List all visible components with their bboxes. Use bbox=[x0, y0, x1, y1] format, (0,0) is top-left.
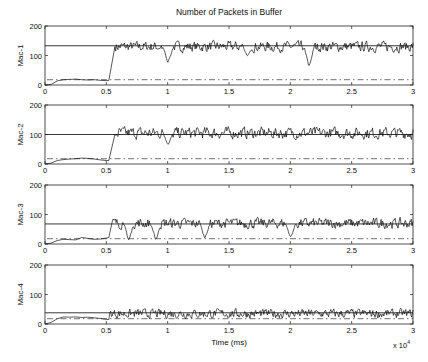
x-tick-label: 0 bbox=[43, 326, 47, 335]
y-tick-label: 0 bbox=[38, 81, 42, 90]
x-tick-label: 1.5 bbox=[224, 326, 234, 335]
x-tick-label: 0.5 bbox=[101, 246, 111, 255]
y-tick-label: 100 bbox=[29, 291, 42, 300]
series-line-mac-1 bbox=[45, 40, 413, 85]
x-tick-label: 0.5 bbox=[101, 87, 111, 96]
x-tick-label: 2.5 bbox=[346, 326, 356, 335]
x-tick-label: 1 bbox=[166, 246, 170, 255]
x-axis-exponent-power: 4 bbox=[407, 339, 410, 345]
x-axis-exponent-base: x 10 bbox=[393, 341, 407, 350]
y-tick-label: 0 bbox=[38, 320, 42, 329]
y-tick-label: 0 bbox=[38, 240, 42, 249]
x-tick-label: 2.5 bbox=[346, 166, 356, 175]
y-axis-label: Mac-2 bbox=[16, 123, 25, 146]
x-axis-exponent: x 104 bbox=[393, 339, 410, 350]
x-tick-label: 3 bbox=[411, 246, 415, 255]
x-tick-label: 1.5 bbox=[224, 166, 234, 175]
y-tick-label: 200 bbox=[29, 22, 42, 31]
axes-frame bbox=[45, 26, 413, 85]
x-tick-label: 0 bbox=[43, 246, 47, 255]
x-tick-label: 0 bbox=[43, 166, 47, 175]
x-tick-label: 2 bbox=[288, 246, 292, 255]
series-line-mac-3 bbox=[45, 217, 413, 244]
x-tick-label: 1.5 bbox=[224, 246, 234, 255]
x-tick-label: 3 bbox=[411, 87, 415, 96]
x-tick-label: 0.5 bbox=[101, 166, 111, 175]
x-tick-label: 1.5 bbox=[224, 87, 234, 96]
y-tick-label: 200 bbox=[29, 261, 42, 270]
subplot-3: 00.511.522.530100200Mac-3 bbox=[16, 181, 415, 255]
x-tick-label: 0 bbox=[43, 87, 47, 96]
x-tick-label: 3 bbox=[411, 326, 415, 335]
y-tick-label: 100 bbox=[29, 211, 42, 220]
y-axis-label: Mac-4 bbox=[16, 283, 25, 306]
x-tick-label: 0.5 bbox=[101, 326, 111, 335]
x-tick-label: 2.5 bbox=[346, 246, 356, 255]
x-tick-label: 2.5 bbox=[346, 87, 356, 96]
y-tick-label: 100 bbox=[29, 131, 42, 140]
x-axis-label: Time (ms) bbox=[211, 338, 247, 347]
y-axis-label: Mac-3 bbox=[16, 203, 25, 226]
axes-frame bbox=[45, 265, 413, 324]
packet-buffer-chart: Number of Packets in Buffer 00.511.522.5… bbox=[0, 0, 428, 362]
x-tick-label: 2 bbox=[288, 166, 292, 175]
x-tick-label: 2 bbox=[288, 326, 292, 335]
y-tick-label: 200 bbox=[29, 101, 42, 110]
x-tick-label: 1 bbox=[166, 326, 170, 335]
x-tick-label: 1 bbox=[166, 166, 170, 175]
y-axis-label: Mac-1 bbox=[16, 44, 25, 67]
axes-frame bbox=[45, 185, 413, 244]
x-tick-label: 2 bbox=[288, 87, 292, 96]
subplot-4: 00.511.522.530100200Mac-4 bbox=[16, 261, 415, 335]
subplot-2: 00.511.522.530100200Mac-2 bbox=[16, 101, 415, 175]
x-tick-label: 1 bbox=[166, 87, 170, 96]
y-tick-label: 0 bbox=[38, 160, 42, 169]
y-tick-label: 100 bbox=[29, 52, 42, 61]
y-tick-label: 200 bbox=[29, 181, 42, 190]
chart-title: Number of Packets in Buffer bbox=[176, 7, 282, 17]
subplot-1: 00.511.522.530100200Mac-1 bbox=[16, 22, 415, 96]
x-tick-label: 3 bbox=[411, 166, 415, 175]
